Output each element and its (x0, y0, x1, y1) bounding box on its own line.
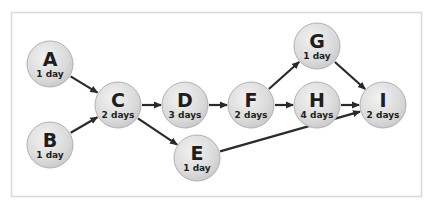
node-label: B (43, 129, 57, 151)
node-i: I2 days (360, 82, 406, 128)
node-duration: 1 day (183, 163, 211, 173)
node-duration: 2 days (367, 110, 400, 120)
node-f: F2 days (228, 82, 274, 128)
node-duration: 1 day (36, 150, 64, 160)
node-duration: 4 days (301, 110, 334, 120)
node-label: F (245, 89, 258, 111)
node-label: A (43, 48, 58, 70)
node-label: G (309, 30, 325, 52)
node-label: D (177, 89, 193, 111)
node-duration: 2 days (102, 110, 135, 120)
node-c: C2 days (95, 82, 141, 128)
node-label: H (309, 89, 325, 111)
activity-network-diagram: A1 dayB1 dayC2 daysD3 daysE1 dayF2 daysG… (0, 0, 429, 205)
node-d: D3 days (162, 82, 208, 128)
node-duration: 1 day (303, 51, 331, 61)
node-g: G1 day (294, 23, 340, 69)
node-a: A1 day (27, 41, 73, 87)
node-b: B1 day (27, 122, 73, 168)
node-duration: 1 day (36, 69, 64, 79)
node-duration: 3 days (169, 110, 202, 120)
node-label: I (379, 89, 386, 111)
node-label: E (191, 142, 204, 164)
node-h: H4 days (294, 82, 340, 128)
node-duration: 2 days (235, 110, 268, 120)
node-label: C (111, 89, 125, 111)
node-e: E1 day (174, 135, 220, 181)
